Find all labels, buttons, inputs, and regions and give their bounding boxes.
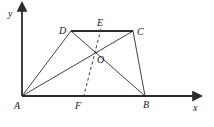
geometry-figure: y x A B C D E F O bbox=[0, 0, 214, 127]
point-label-E: E bbox=[97, 18, 103, 28]
point-label-O: O bbox=[97, 55, 104, 65]
x-axis-label: x bbox=[193, 103, 197, 113]
point-label-A: A bbox=[14, 101, 20, 111]
y-axis-label: y bbox=[8, 9, 12, 19]
point-label-B: B bbox=[143, 100, 149, 110]
point-label-C: C bbox=[137, 27, 144, 37]
point-label-F: F bbox=[75, 101, 81, 111]
geometry-canvas bbox=[0, 0, 214, 127]
point-label-D: D bbox=[59, 26, 66, 36]
diagonal-DB bbox=[71, 31, 145, 96]
side-AD bbox=[22, 31, 71, 96]
point-O-marker bbox=[96, 51, 97, 52]
side-CB bbox=[133, 31, 145, 96]
diagonal-AC bbox=[22, 31, 133, 96]
